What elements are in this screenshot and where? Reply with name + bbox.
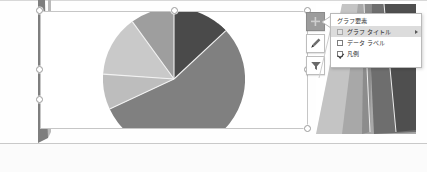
- menu-item-label: 凡例: [347, 50, 359, 58]
- menu-item-data-labels[interactable]: データ ラベル: [331, 37, 421, 48]
- flyout-title: グラフ要素: [331, 16, 421, 26]
- menu-item-legend[interactable]: 凡例: [331, 48, 421, 59]
- document-bottom-margin: [0, 144, 427, 172]
- handle-top-left[interactable]: [36, 7, 43, 14]
- screenshot-root: グラフ要素 グラフ タイトル データ ラベル 凡例: [0, 0, 427, 172]
- chart-object-frame[interactable]: [40, 11, 308, 129]
- menu-item-label: データ ラベル: [347, 39, 385, 47]
- chart-title-checkbox[interactable]: [337, 29, 343, 35]
- handle-top-center[interactable]: [171, 7, 178, 14]
- document-top-rule: [0, 0, 427, 1]
- handle-bottom-right[interactable]: [304, 125, 311, 132]
- chart-plot-area[interactable]: [41, 12, 307, 128]
- legend-checkbox[interactable]: [337, 51, 343, 57]
- menu-item-label: グラフ タイトル: [347, 28, 391, 36]
- pie-chart-graphic[interactable]: [103, 12, 245, 128]
- data-labels-checkbox[interactable]: [337, 40, 343, 46]
- chevron-right-icon[interactable]: [415, 30, 418, 34]
- handle-middle-left[interactable]: [36, 66, 43, 73]
- chart-elements-flyout[interactable]: グラフ要素 グラフ タイトル データ ラベル 凡例: [330, 13, 422, 68]
- handle-bottom-left[interactable]: [36, 96, 43, 103]
- plus-icon: [310, 16, 321, 27]
- menu-item-chart-title[interactable]: グラフ タイトル: [331, 26, 421, 37]
